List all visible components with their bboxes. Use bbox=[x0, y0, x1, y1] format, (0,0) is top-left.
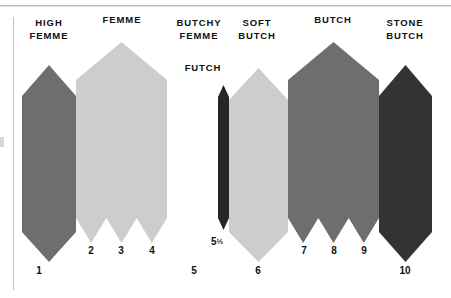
category-label-futch: FUTCH bbox=[177, 62, 229, 75]
scale-number-1: 1 bbox=[28, 265, 50, 276]
category-label-butch: BUTCH bbox=[303, 14, 363, 27]
scale-number-2: 2 bbox=[80, 245, 102, 256]
scale-number-4: 4 bbox=[141, 245, 163, 256]
category-label-soft-butch: SOFT BUTCH bbox=[231, 17, 283, 42]
category-label-femme: FEMME bbox=[92, 14, 152, 27]
scale-number-7: 7 bbox=[293, 245, 315, 256]
bar-butch bbox=[288, 42, 379, 243]
category-label-high-femme: HIGH FEMME bbox=[19, 17, 79, 42]
bars-container bbox=[0, 0, 451, 298]
category-label-stone-butch: STONE BUTCH bbox=[377, 17, 433, 42]
bar-soft-butch bbox=[229, 68, 288, 262]
scale-number-5-half: 5½ bbox=[206, 236, 228, 247]
bar-high-femme bbox=[22, 65, 76, 262]
scale-number-5: 5 bbox=[183, 265, 205, 276]
scale-number-6: 6 bbox=[247, 265, 269, 276]
chart-figure: HIGH FEMMEFEMMEBUTCHY FEMMEFUTCHSOFT BUT… bbox=[0, 0, 451, 298]
scale-number-3: 3 bbox=[110, 245, 132, 256]
bar-stone-butch bbox=[379, 65, 432, 262]
scale-number-8: 8 bbox=[323, 245, 345, 256]
bar-femme bbox=[76, 42, 167, 243]
scale-number-9: 9 bbox=[353, 245, 375, 256]
scale-number-10: 10 bbox=[394, 265, 416, 276]
category-label-butchy-femme: BUTCHY FEMME bbox=[169, 17, 229, 42]
scale-number-fraction: ½ bbox=[216, 237, 223, 246]
bar-futch bbox=[218, 85, 229, 230]
